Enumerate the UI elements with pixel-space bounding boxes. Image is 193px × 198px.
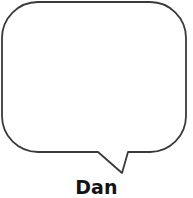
- speaker-name-label: Dan: [0, 177, 193, 197]
- speech-bubble-text[interactable]: [14, 12, 174, 142]
- speech-bubble-diagram: Dan: [0, 0, 193, 198]
